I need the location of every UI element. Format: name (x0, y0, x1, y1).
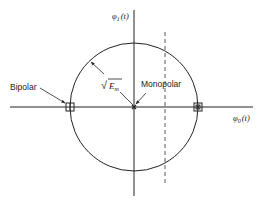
radius-arrow (91, 62, 104, 74)
radius-label: √ Em (101, 79, 122, 92)
radius-origin-line (120, 92, 133, 105)
monopolar-arrow (136, 93, 146, 104)
vertical-axis-label: φ1(t) (112, 11, 129, 22)
monopolar-label: Monopolar (141, 79, 181, 89)
horizontal-axis-label: φ0(t) (233, 113, 250, 124)
svg-text:Em: Em (108, 81, 120, 92)
bipolar-label: Bipolar (10, 82, 37, 92)
bipolar-arrow (40, 88, 65, 103)
constellation-diagram: φ1(t) φ0(t) Bipolar Monopolar √ Em (0, 0, 267, 204)
svg-text:√: √ (101, 79, 108, 91)
